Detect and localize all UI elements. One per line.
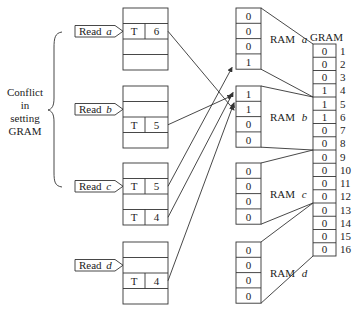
svg-text:8: 8 [340,137,346,149]
svg-text:RAM a: RAM a [270,33,308,45]
read-a-register-box: T6 [123,8,168,70]
svg-text:7: 7 [340,124,346,136]
svg-text:T: T [131,119,138,131]
svg-text:5: 5 [154,180,160,192]
svg-text:GRAM: GRAM [310,31,343,43]
ram-c-block: 0000RAM c [236,150,313,224]
svg-text:0: 0 [246,10,252,22]
svg-text:0: 0 [246,40,252,52]
svg-text:setting: setting [10,112,40,124]
svg-text:16: 16 [340,243,352,255]
svg-text:0: 0 [246,25,252,37]
read-c-label: Read c [75,180,123,192]
read-b-label: Read b [75,103,123,115]
svg-text:1: 1 [322,98,328,110]
svg-text:0: 0 [246,165,252,177]
svg-text:5: 5 [340,98,346,110]
svg-text:0: 0 [246,244,252,256]
read-d-register-box: T4 [123,242,168,304]
svg-text:0: 0 [246,274,252,286]
svg-text:4: 4 [340,84,346,96]
svg-text:0: 0 [246,211,252,223]
read-b-register-box: T5 [123,86,168,148]
svg-text:in: in [21,99,30,111]
svg-text:4: 4 [154,211,160,223]
svg-text:T: T [131,25,138,37]
svg-text:0: 0 [322,177,328,189]
svg-text:0: 0 [322,58,328,70]
read-b-group: Read bT5 [75,86,168,148]
svg-text:0: 0 [246,290,252,302]
svg-text:9: 9 [340,151,346,163]
svg-text:T: T [131,275,138,287]
svg-text:0: 0 [246,259,252,271]
svg-text:1: 1 [322,111,328,123]
svg-text:12: 12 [340,190,351,202]
svg-text:13: 13 [340,204,352,216]
svg-text:1: 1 [322,84,328,96]
svg-text:6: 6 [154,25,160,37]
svg-text:0: 0 [322,71,328,83]
svg-text:Read a: Read a [79,25,112,37]
svg-text:1: 1 [246,56,252,68]
svg-text:5: 5 [154,119,160,131]
svg-text:RAM c: RAM c [270,188,307,200]
read-c-group: Read cT5T4 [75,163,168,225]
pointer-arrows [168,31,234,281]
svg-text:Read c: Read c [79,180,111,192]
svg-text:1: 1 [340,45,346,57]
svg-text:0: 0 [322,190,328,202]
svg-text:3: 3 [340,71,346,83]
svg-text:0: 0 [322,45,328,57]
svg-text:Conflict: Conflict [7,86,43,98]
gram-conflict-diagram: Conflict in setting GRAM Read aT6Read bT… [0,0,357,310]
svg-text:2: 2 [340,58,346,70]
read-c-register-box: T5T4 [123,163,168,225]
svg-text:10: 10 [340,164,352,176]
svg-text:1: 1 [246,103,252,115]
read-a-label: Read a [75,25,123,37]
read-d-label: Read d [75,259,123,271]
svg-text:11: 11 [340,177,351,189]
svg-text:T: T [131,211,138,223]
svg-text:4: 4 [154,275,160,287]
svg-text:15: 15 [340,230,352,242]
svg-text:0: 0 [322,204,328,216]
svg-text:Read d: Read d [79,259,112,271]
svg-text:0: 0 [246,180,252,192]
svg-text:T: T [131,180,138,192]
gram-column: GRAM010203141516070809010011012013014015… [310,31,352,256]
svg-text:0: 0 [322,151,328,163]
svg-text:0: 0 [246,118,252,130]
svg-text:0: 0 [246,134,252,146]
svg-text:0: 0 [246,195,252,207]
svg-text:0: 0 [322,217,328,229]
svg-text:Read b: Read b [79,103,112,115]
ram-a-block: 0001RAM a [236,8,313,97]
svg-text:0: 0 [322,124,328,136]
svg-text:GRAM: GRAM [8,125,41,137]
svg-text:6: 6 [340,111,346,123]
ram-b-block: 1100RAM b [236,86,313,150]
svg-text:1: 1 [246,88,252,100]
read-a-group: Read aT6 [75,8,168,70]
svg-text:0: 0 [322,164,328,176]
conflict-label: Conflict in setting GRAM [7,86,43,137]
svg-text:0: 0 [322,243,328,255]
svg-text:0: 0 [322,230,328,242]
conflict-brace [48,32,62,187]
svg-text:RAM b: RAM b [270,111,308,123]
read-d-group: Read dT4 [75,242,168,304]
svg-text:RAM d: RAM d [270,267,308,279]
svg-text:0: 0 [322,137,328,149]
svg-text:14: 14 [340,217,352,229]
